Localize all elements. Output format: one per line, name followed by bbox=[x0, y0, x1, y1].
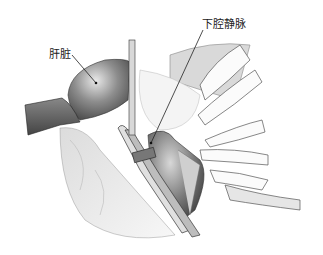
liver-shape bbox=[68, 59, 130, 120]
liver-label: 肝脏 bbox=[49, 45, 71, 61]
surgeon-hand bbox=[198, 45, 300, 210]
inferior-vena-cava-label: 下腔静脉 bbox=[202, 15, 246, 31]
medical-illustration: 肝脏 下腔静脉 bbox=[0, 0, 323, 255]
illustration-drawing bbox=[0, 0, 323, 255]
suction-instrument bbox=[129, 40, 135, 135]
